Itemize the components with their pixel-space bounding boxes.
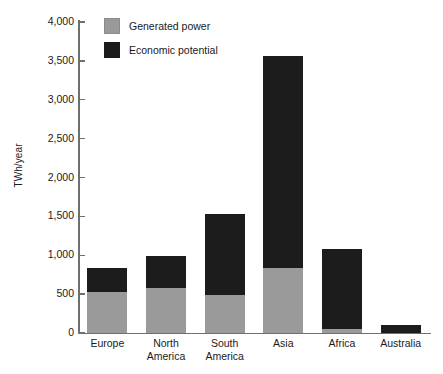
stacked-bar-chart: TWh/year 05001,0001,5002,0002,5003,0003,… — [0, 0, 443, 374]
bar-segment-economic-potential — [205, 214, 245, 296]
bar-segment-generated-power — [263, 268, 303, 333]
legend-swatch-generated-power-icon — [104, 18, 120, 34]
bar-segment-economic-potential — [381, 325, 421, 333]
chart-legend: Generated power Economic potential — [104, 16, 304, 64]
x-axis-label-line: Europe — [90, 337, 124, 349]
y-axis-tick-label: 500 — [56, 287, 74, 300]
bar-asia — [263, 56, 303, 333]
legend-item-economic-potential: Economic potential — [104, 40, 304, 60]
bar-segment-economic-potential — [87, 268, 127, 292]
x-axis-label-north-america: NorthAmerica — [137, 337, 196, 362]
x-axis-label-australia: Australia — [371, 337, 430, 350]
x-axis-label-line: Africa — [329, 337, 356, 349]
bar-segment-generated-power — [205, 295, 245, 333]
y-axis-tick-label: 3,500 — [48, 54, 74, 67]
x-axis-label-line: South — [211, 337, 238, 349]
x-axis-label-south-america: SouthAmerica — [195, 337, 254, 362]
bar-south-america — [205, 214, 245, 333]
legend-item-generated-power: Generated power — [104, 16, 304, 36]
legend-label-generated-power: Generated power — [129, 20, 210, 32]
legend-label-economic-potential: Economic potential — [129, 44, 218, 56]
y-axis-tick-label: 2,500 — [48, 132, 74, 145]
y-axis-tick-label: 4,000 — [48, 15, 74, 28]
y-axis-tick-label: 0 — [68, 326, 74, 339]
x-axis-label-europe: Europe — [78, 337, 137, 350]
x-axis-labels: EuropeNorthAmericaSouthAmericaAsiaAfrica… — [78, 337, 430, 373]
y-axis-tick-label: 3,000 — [48, 93, 74, 106]
x-axis-label-line: North — [153, 337, 179, 349]
bar-australia — [381, 325, 421, 333]
x-axis-label-line: America — [195, 350, 254, 363]
x-axis-label-asia: Asia — [254, 337, 313, 350]
bar-segment-generated-power — [322, 329, 362, 333]
legend-swatch-economic-potential-icon — [104, 42, 120, 58]
bar-segment-economic-potential — [263, 56, 303, 267]
bars-container — [78, 22, 430, 333]
y-axis-tick-label: 1,500 — [48, 209, 74, 222]
bar-africa — [322, 249, 362, 333]
x-axis-label-line: Asia — [273, 337, 293, 349]
bar-north-america — [146, 256, 186, 333]
bar-segment-economic-potential — [322, 249, 362, 329]
bar-segment-generated-power — [146, 288, 186, 333]
y-axis-tick-label: 1,000 — [48, 248, 74, 261]
x-axis-label-africa: Africa — [313, 337, 372, 350]
y-axis-title: TWh/year — [13, 126, 24, 206]
bar-segment-economic-potential — [146, 256, 186, 288]
bar-europe — [87, 268, 127, 333]
bar-segment-generated-power — [87, 292, 127, 333]
x-axis-label-line: America — [137, 350, 196, 363]
y-axis-tick-label: 2,000 — [48, 171, 74, 184]
x-axis-label-line: Australia — [380, 337, 421, 349]
